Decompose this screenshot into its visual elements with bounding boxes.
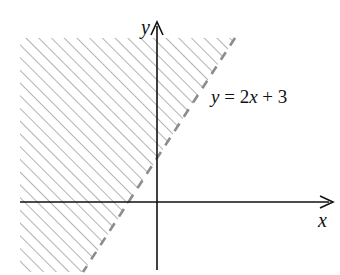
x-axis-label: x — [318, 210, 327, 230]
inequality-graph — [0, 0, 340, 275]
equation-rest: + 3 — [258, 86, 288, 107]
equation-x: x — [249, 86, 257, 107]
shaded-region — [20, 38, 240, 274]
y-axis-label: y — [141, 17, 150, 37]
equation-eq: = 2 — [219, 86, 249, 107]
boundary-equation-label: y = 2x + 3 — [211, 87, 287, 106]
